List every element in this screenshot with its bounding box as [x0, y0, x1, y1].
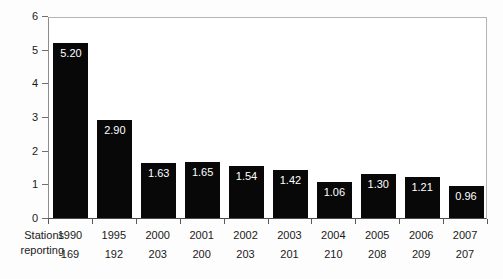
stations-reporting-value: 203 — [224, 247, 268, 262]
y-tick-label: 3 — [22, 112, 38, 123]
bar: 1.21 — [405, 177, 440, 218]
stations-reporting-value: 169 — [48, 247, 92, 262]
x-tick-mark — [443, 219, 444, 224]
y-tick-label: 4 — [22, 78, 38, 89]
bar: 1.65 — [185, 162, 220, 218]
x-axis-category-label: 2007 — [443, 228, 487, 243]
stations-reporting-value: 192 — [92, 247, 136, 262]
bar: 0.96 — [449, 186, 484, 218]
stations-reporting-value: 203 — [136, 247, 180, 262]
x-axis-category-label: 2004 — [311, 228, 355, 243]
x-tick-mark — [136, 219, 137, 224]
bar: 1.06 — [317, 182, 352, 218]
bar: 1.54 — [229, 166, 264, 218]
y-tick-label: 2 — [22, 146, 38, 157]
x-axis-category-label: 2006 — [399, 228, 443, 243]
bar-value-label: 1.63 — [141, 167, 176, 179]
stations-reporting-value: 201 — [268, 247, 312, 262]
stations-reporting-value: 209 — [399, 247, 443, 262]
y-tick-label: 5 — [22, 45, 38, 56]
x-tick-mark — [48, 219, 49, 224]
x-tick-mark — [399, 219, 400, 224]
plot-area: 5.202.901.631.651.541.421.061.301.210.96 — [48, 17, 487, 219]
x-axis-category-label: 2001 — [180, 228, 224, 243]
y-tick-label: 6 — [22, 11, 38, 22]
y-tick-label: 0 — [22, 213, 38, 224]
bar-value-label: 1.30 — [361, 178, 396, 190]
bar: 1.42 — [273, 170, 308, 218]
x-axis-category-label: 2003 — [268, 228, 312, 243]
y-tick-label: 1 — [22, 179, 38, 190]
x-axis-category-label: 2005 — [355, 228, 399, 243]
bar-value-label: 2.90 — [97, 124, 132, 136]
bar-value-label: 1.54 — [229, 170, 264, 182]
stations-reporting-value: 207 — [443, 247, 487, 262]
bar-value-label: 0.96 — [449, 190, 484, 202]
bar-value-label: 1.42 — [273, 174, 308, 186]
x-tick-mark — [180, 219, 181, 224]
x-tick-mark — [355, 219, 356, 224]
stations-reporting-value: 208 — [355, 247, 399, 262]
x-tick-mark — [92, 219, 93, 224]
bar-value-label: 1.65 — [185, 166, 220, 178]
bar-value-label: 1.21 — [405, 181, 440, 193]
bar: 5.20 — [53, 43, 88, 218]
x-tick-mark — [487, 219, 488, 224]
bar-chart-figure: Accidents per 1 000 000 person-hours wor… — [0, 0, 503, 279]
stations-reporting-value: 210 — [311, 247, 355, 262]
x-tick-mark — [224, 219, 225, 224]
x-tick-mark — [311, 219, 312, 224]
bar: 1.30 — [361, 174, 396, 218]
x-axis-category-label: 1995 — [92, 228, 136, 243]
x-axis-category-label: 2000 — [136, 228, 180, 243]
bar-value-label: 5.20 — [53, 47, 88, 59]
x-axis-category-label: 2002 — [224, 228, 268, 243]
bar: 1.63 — [141, 163, 176, 218]
x-tick-mark — [268, 219, 269, 224]
bar-value-label: 1.06 — [317, 186, 352, 198]
stations-reporting-value: 200 — [180, 247, 224, 262]
bar: 2.90 — [97, 120, 132, 218]
x-axis-category-label: 1990 — [48, 228, 92, 243]
